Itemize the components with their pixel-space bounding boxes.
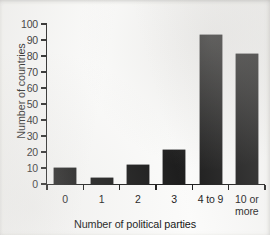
y-axis-tick [41, 183, 46, 184]
y-axis-tick [41, 87, 46, 88]
y-axis-tick-label: 0 [0, 179, 38, 190]
y-axis-tick [41, 151, 46, 152]
plot-area [47, 24, 265, 184]
bar [54, 168, 76, 184]
y-axis-title: Number of countries [15, 21, 27, 161]
x-axis-tick [119, 185, 120, 190]
y-axis-line [46, 23, 47, 185]
y-axis-tick [41, 135, 46, 136]
bar [236, 54, 258, 184]
bar [127, 165, 149, 184]
x-axis-tick [264, 185, 265, 190]
x-axis-tick [155, 185, 156, 190]
x-axis-category-label-line: 10 or [221, 193, 270, 205]
bar-chart-figure: 0102030405060708090100 01234 to 910 ormo… [0, 0, 270, 235]
bar [200, 35, 222, 184]
x-axis-tick [228, 185, 229, 190]
x-axis-category-label-line: more [221, 205, 270, 217]
y-axis-tick [41, 39, 46, 40]
x-axis-tick [46, 185, 47, 190]
y-axis-tick [41, 71, 46, 72]
x-axis-tick [83, 185, 84, 190]
y-axis-tick [41, 23, 46, 24]
x-axis-tick [192, 185, 193, 190]
y-axis-tick [41, 167, 46, 168]
x-axis-title: Number of political parties [0, 218, 270, 230]
y-axis-tick [41, 103, 46, 104]
y-axis-tick [41, 119, 46, 120]
bar [163, 150, 185, 184]
y-axis-tick-label: 10 [0, 163, 38, 174]
x-axis-category-label: 10 ormore [221, 193, 270, 217]
y-axis-tick [41, 55, 46, 56]
